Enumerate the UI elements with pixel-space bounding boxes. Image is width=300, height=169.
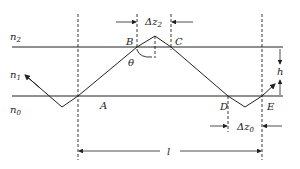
theta-angle-arc — [137, 50, 152, 57]
point-label-D: D — [219, 101, 228, 112]
dimension-label-dz0: Δz0 — [236, 121, 255, 134]
point-label-C: C — [175, 36, 183, 47]
dashed-guides — [78, 14, 262, 160]
medium-label-n2: n2 — [10, 31, 21, 44]
dimension-label-dz2: Δz2 — [144, 16, 163, 29]
point-label-B: B — [125, 36, 133, 47]
point-label-E: E — [266, 101, 275, 112]
point-label-A: A — [99, 100, 107, 111]
waveguide-ray-diagram: n2 n1 n0 A B C D E θ Δz2 h Δz0 l — [0, 0, 300, 169]
angle-label-theta: θ — [128, 57, 134, 68]
medium-label-n1: n1 — [10, 69, 21, 82]
ray-outgoing-arrow — [262, 84, 275, 96]
dimension-label-h: h — [277, 66, 283, 77]
dimension-label-l: l — [167, 146, 170, 157]
medium-label-n0: n0 — [10, 104, 21, 117]
ray-incoming-arrow — [25, 75, 40, 88]
